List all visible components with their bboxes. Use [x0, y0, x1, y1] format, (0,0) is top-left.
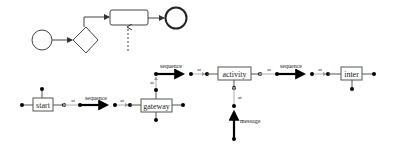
attach-link: at [193, 67, 205, 74]
sequence-label: sequence [85, 95, 107, 101]
bottom-graph-diagram: start at sequence at gateway [20, 63, 376, 141]
task-rect [110, 10, 148, 25]
gateway-label: gateway [143, 102, 170, 111]
node-gateway[interactable]: gateway [128, 88, 185, 122]
attach-link: at [66, 98, 79, 105]
message-label: message [240, 118, 261, 124]
diagram-canvas: start at sequence at gateway [0, 0, 397, 148]
sequence-label: sequence [280, 63, 302, 69]
attach-link: at [262, 67, 276, 74]
attach-link: at [150, 77, 156, 88]
sequence-label: sequence [160, 63, 182, 69]
top-bpmn-diagram [32, 8, 187, 54]
attach-link: at [314, 67, 326, 74]
flow-gateway-to-task [84, 17, 109, 27]
port-dot [181, 103, 185, 107]
inter-label: inter [344, 70, 359, 79]
port-dot [40, 87, 44, 91]
gateway-diamond [73, 27, 98, 53]
svg-text:at: at [318, 67, 322, 72]
node-activity[interactable]: activity [205, 67, 262, 90]
start-event-circle [32, 30, 52, 50]
port-dot [372, 72, 376, 76]
edge-sequence-2[interactable]: sequence [154, 63, 193, 76]
svg-text:at: at [238, 95, 242, 100]
svg-text:at: at [71, 98, 75, 103]
edge-message[interactable]: message [232, 104, 261, 141]
port-dot [20, 103, 24, 107]
attach-link: at [234, 90, 242, 104]
port-dot [62, 103, 66, 107]
svg-text:at: at [267, 67, 271, 72]
node-start[interactable]: start [20, 87, 66, 111]
port-dot [154, 118, 158, 122]
attach-link: at [117, 98, 128, 105]
port-dot [350, 87, 354, 91]
edge-sequence-1[interactable]: sequence [78, 95, 117, 107]
edge-sequence-3[interactable]: sequence [275, 63, 314, 76]
svg-text:at: at [120, 98, 124, 103]
activity-label: activity [223, 70, 247, 79]
svg-text:at: at [150, 80, 154, 85]
node-inter[interactable]: inter [326, 67, 376, 91]
port-dot [154, 88, 158, 92]
start-label: start [36, 101, 51, 110]
end-event-circle [166, 8, 187, 29]
svg-text:at: at [197, 67, 201, 72]
port-dot [232, 86, 236, 90]
port-dot [258, 72, 262, 76]
